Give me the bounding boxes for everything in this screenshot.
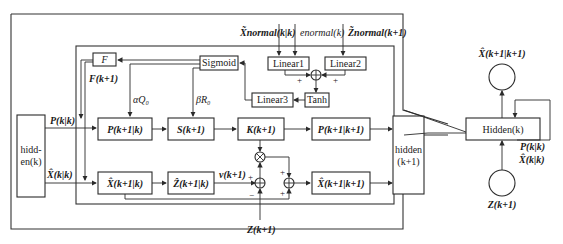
linear3-label: Linear3 (257, 94, 288, 105)
right-x-out-label: X̂(k+1|k+1) (478, 47, 526, 60)
p-pred-label: P(k+1|k) (107, 124, 143, 136)
hidden-k1-block (393, 116, 424, 194)
e-normal-label: enormal(k) (300, 27, 345, 39)
f-label: F (100, 54, 108, 65)
hidden-k1-label-1: hidden (395, 144, 422, 155)
beta-r-label: βR₀ (195, 94, 211, 105)
output-node (489, 64, 515, 90)
right-p-kk-label: P(k|k) (520, 141, 545, 153)
plus-sign: + (280, 167, 285, 177)
z-normal-label: Z̃normal(k+1) (347, 26, 406, 39)
hidden-k-label-2: en(k) (20, 156, 41, 168)
k-label: K(k+1) (245, 124, 275, 136)
plus-sign: + (280, 188, 285, 198)
x-pred-label: X̂(k+1|k) (106, 177, 143, 190)
input-node (489, 170, 515, 196)
linear2-label: Linear2 (330, 58, 361, 69)
alpha-q-label: αQ₀ (133, 94, 149, 105)
z-pred-label: Ẑ(k+1|k) (172, 178, 209, 190)
right-x-kk-label: X̂(k|k) (518, 153, 545, 166)
p-upd-label: P(k+1|k+1) (318, 124, 364, 136)
linear1-label: Linear1 (273, 58, 304, 69)
hidden-k1-label-2: (k+1) (397, 156, 419, 168)
s-label: S(k+1) (177, 124, 205, 136)
x-normal-label: X̃normal(k|k) (239, 26, 296, 39)
z-k1-label: Z(k+1) (246, 224, 275, 236)
plus-sign: + (248, 172, 253, 182)
sigmoid-label: Sigmoid (202, 57, 236, 68)
x-kk-label: X̂(k|k) (46, 168, 73, 181)
right-z-label: Z(k+1) (487, 199, 516, 211)
minus-sign: − (249, 190, 254, 200)
plus-sign: + (333, 75, 338, 85)
plus-sign: + (297, 75, 302, 85)
x-upd-label: X̂(k+1|k+1) (317, 177, 365, 190)
hidden-k-label-1: hidd- (20, 144, 41, 155)
hidden-label: Hidden(k) (482, 124, 523, 136)
f-k1-label: F(k+1) (88, 73, 118, 85)
tanh-label: Tanh (307, 94, 327, 105)
kalman-net-diagram: X̃normal(k|k) enormal(k) Z̃normal(k+1) L… (0, 0, 563, 244)
p-kk-label: P(k|k) (50, 115, 75, 127)
v-label: v(k+1) (219, 169, 246, 181)
